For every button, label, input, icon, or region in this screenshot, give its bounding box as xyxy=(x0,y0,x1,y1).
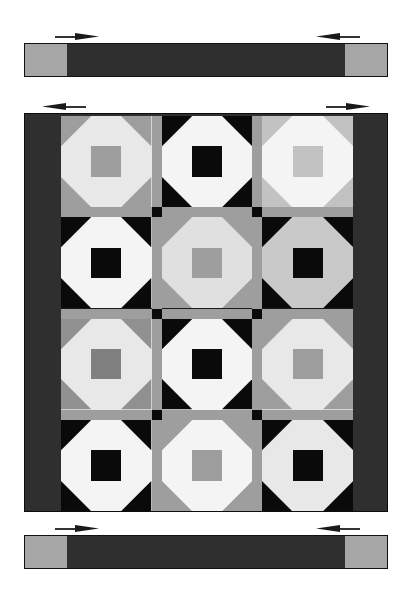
block-edge-patch xyxy=(91,177,121,207)
block-corner-triangle xyxy=(222,481,252,511)
block-corner-triangle xyxy=(162,420,192,450)
block-center-patch xyxy=(192,349,222,379)
block-corner-triangle xyxy=(121,177,151,207)
block-edge-patch xyxy=(121,146,151,176)
bottom-strip-left-cap xyxy=(25,536,67,568)
top-strip-left-cap xyxy=(25,44,67,76)
quilt-diagram-stage xyxy=(0,0,414,596)
block-edge-patch xyxy=(262,349,292,379)
block-center-patch xyxy=(91,248,121,278)
block-corner-triangle xyxy=(323,379,353,409)
block-corner-triangle xyxy=(121,420,151,450)
block-edge-patch xyxy=(192,177,222,207)
block-corner-triangle xyxy=(222,420,252,450)
quilt-block xyxy=(162,319,253,410)
block-corner-triangle xyxy=(61,379,91,409)
block-corner-triangle xyxy=(262,177,292,207)
block-corner-triangle xyxy=(323,278,353,308)
vertical-sashing xyxy=(252,319,262,410)
block-edge-patch xyxy=(323,349,353,379)
panel-arrow-left xyxy=(38,101,86,111)
block-edge-patch xyxy=(222,146,252,176)
block-corner-triangle xyxy=(61,420,91,450)
block-edge-patch xyxy=(61,248,91,278)
block-corner-triangle xyxy=(121,319,151,349)
block-edge-patch xyxy=(222,349,252,379)
block-corner-triangle xyxy=(121,379,151,409)
block-corner-triangle xyxy=(61,116,91,146)
vertical-sashing xyxy=(152,420,162,511)
block-edge-patch xyxy=(192,379,222,409)
block-corner-triangle xyxy=(222,379,252,409)
block-corner-triangle xyxy=(121,217,151,247)
block-corner-triangle xyxy=(222,116,252,146)
block-edge-patch xyxy=(262,450,292,480)
block-edge-patch xyxy=(293,379,323,409)
block-edge-patch xyxy=(162,349,192,379)
block-edge-patch xyxy=(222,450,252,480)
block-center-patch xyxy=(192,248,222,278)
block-edge-patch xyxy=(323,146,353,176)
block-center-patch xyxy=(91,349,121,379)
quilt-block xyxy=(262,116,353,207)
block-edge-patch xyxy=(293,481,323,511)
block-edge-patch xyxy=(162,146,192,176)
horizontal-sashing xyxy=(61,207,152,217)
block-corner-triangle xyxy=(61,278,91,308)
block-edge-patch xyxy=(61,349,91,379)
top-strip-right-cap xyxy=(345,44,387,76)
quilt-block-grid xyxy=(61,116,353,511)
quilt-block xyxy=(162,116,253,207)
block-corner-triangle xyxy=(162,116,192,146)
block-center-patch xyxy=(192,450,222,480)
block-edge-patch xyxy=(262,146,292,176)
block-corner-triangle xyxy=(323,319,353,349)
block-edge-patch xyxy=(91,116,121,146)
block-edge-patch xyxy=(323,450,353,480)
block-corner-triangle xyxy=(162,379,192,409)
block-corner-triangle xyxy=(262,379,292,409)
horizontal-sashing xyxy=(61,309,152,319)
sashing-cornerstone xyxy=(252,309,262,319)
block-center-patch xyxy=(293,450,323,480)
vertical-sashing xyxy=(252,116,262,207)
block-corner-triangle xyxy=(323,420,353,450)
block-edge-patch xyxy=(192,217,222,247)
bottom-strip-arrow-left xyxy=(55,523,103,533)
horizontal-sashing xyxy=(262,309,353,319)
top-strip-middle xyxy=(67,44,345,76)
block-edge-patch xyxy=(293,278,323,308)
block-corner-triangle xyxy=(61,177,91,207)
block-edge-patch xyxy=(222,248,252,278)
block-corner-triangle xyxy=(162,481,192,511)
block-edge-patch xyxy=(91,217,121,247)
block-corner-triangle xyxy=(262,481,292,511)
sashing-cornerstone xyxy=(252,410,262,420)
quilt-block xyxy=(262,420,353,511)
block-edge-patch xyxy=(293,177,323,207)
block-edge-patch xyxy=(91,379,121,409)
quilt-block xyxy=(262,217,353,308)
quilt-block xyxy=(61,217,152,308)
block-center-patch xyxy=(293,146,323,176)
block-corner-triangle xyxy=(162,177,192,207)
top-strip-arrow-right xyxy=(312,31,360,41)
horizontal-sashing xyxy=(262,207,353,217)
block-edge-patch xyxy=(262,248,292,278)
block-corner-triangle xyxy=(61,217,91,247)
block-center-patch xyxy=(91,146,121,176)
block-edge-patch xyxy=(323,248,353,278)
block-corner-triangle xyxy=(222,278,252,308)
bottom-strip-right-cap xyxy=(345,536,387,568)
block-edge-patch xyxy=(91,420,121,450)
block-edge-patch xyxy=(192,420,222,450)
top-strip-arrow-left xyxy=(55,31,103,41)
block-edge-patch xyxy=(192,278,222,308)
panel-arrow-right xyxy=(326,101,374,111)
vertical-sashing xyxy=(152,319,162,410)
block-corner-triangle xyxy=(222,177,252,207)
block-corner-triangle xyxy=(262,217,292,247)
block-edge-patch xyxy=(192,319,222,349)
block-edge-patch xyxy=(121,450,151,480)
block-edge-patch xyxy=(61,146,91,176)
